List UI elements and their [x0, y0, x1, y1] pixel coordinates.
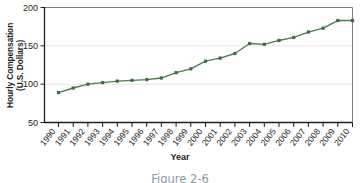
- data-point-marker: [145, 78, 148, 81]
- data-point-marker: [263, 43, 266, 46]
- data-point-marker: [277, 39, 280, 42]
- grid-lines: [45, 8, 353, 85]
- x-tick-label: 2007: [288, 126, 308, 147]
- data-point-marker: [72, 86, 75, 89]
- x-tick-label: 1990: [38, 126, 58, 147]
- x-tick-label: 2005: [258, 126, 278, 147]
- data-point-marker: [130, 79, 133, 82]
- x-axis: [45, 123, 353, 128]
- data-point-marker: [57, 91, 60, 94]
- x-tick-label: 2003: [229, 126, 249, 147]
- y-tick-label: 100: [23, 79, 38, 89]
- data-point-marker: [160, 76, 163, 79]
- x-tick-label: 2000: [185, 126, 205, 147]
- data-point-marker: [307, 30, 310, 33]
- x-tick-label: 2004: [244, 126, 264, 147]
- x-tick-label: 1998: [156, 126, 176, 147]
- data-point-marker: [336, 19, 339, 22]
- x-tick-label: 2010: [332, 126, 352, 147]
- x-tick-label: 2009: [317, 126, 337, 147]
- y-tick-label: 50: [28, 118, 38, 128]
- data-point-marker: [116, 80, 119, 83]
- x-tick-label: 1996: [126, 126, 146, 147]
- x-tick-label: 1993: [82, 126, 102, 147]
- data-point-marker: [175, 71, 178, 74]
- x-tick-label: 1999: [170, 126, 190, 147]
- data-point-marker: [101, 81, 104, 84]
- data-point-marker: [189, 67, 192, 70]
- data-point-marker: [322, 27, 325, 30]
- y-tick-label: 200: [23, 3, 38, 13]
- x-tick-label: 1994: [97, 126, 117, 147]
- x-tick-label: 2008: [303, 126, 323, 147]
- y-tick-labels: 50100150200: [23, 3, 38, 128]
- data-point-marker: [292, 36, 295, 39]
- figure-caption: Figure 2-6: [0, 172, 360, 183]
- x-tick-label: 1992: [67, 126, 87, 147]
- x-axis-title: Year: [0, 152, 360, 162]
- x-tick-label: 1997: [141, 126, 161, 147]
- x-tick-label: 2006: [273, 126, 293, 147]
- y-axis: [41, 7, 45, 123]
- x-tick-label: 1991: [53, 126, 73, 147]
- x-tick-label: 1995: [111, 126, 131, 147]
- data-point-marker: [351, 19, 354, 22]
- figure-container: Hourly Compensation (U.S. Dollars) 50100…: [0, 0, 360, 183]
- y-tick-label: 150: [23, 41, 38, 51]
- data-point-marker: [233, 52, 236, 55]
- data-point-marker: [248, 42, 251, 45]
- x-tick-labels: 1990199119921993199419951996199719981999…: [38, 126, 352, 147]
- data-point-marker: [204, 60, 207, 63]
- x-tick-label: 2002: [214, 126, 234, 147]
- data-series: [57, 19, 354, 94]
- data-point-marker: [86, 83, 89, 86]
- x-tick-label: 2001: [200, 126, 220, 147]
- data-point-marker: [219, 57, 222, 60]
